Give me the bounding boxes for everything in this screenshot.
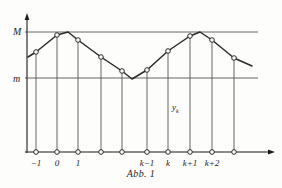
data-point-marker [210,38,215,43]
data-point-marker [34,50,39,55]
data-markers-group [34,33,237,74]
curve-group [28,32,252,79]
level-lines-group [25,32,258,78]
data-point-marker [76,38,81,43]
x-tick-label: 1 [64,159,92,168]
droplines-group [36,35,234,152]
axis-tick-marker [120,150,125,155]
series-polyline [28,32,252,79]
x-axis-arrowhead [268,150,275,155]
axis-tick-marker [34,150,39,155]
figure-abb-1: M m yk −101k−1kk+1k+2 Abb. 1 [0,0,282,188]
y-axis-arrowhead [25,13,30,20]
series-label-subscript: k [176,108,179,114]
axis-tick-marker [55,150,60,155]
axis-tick-marker [76,150,81,155]
x-tick-label: k+2 [198,159,226,168]
axis-tick-marker [145,150,150,155]
axis-tick-marker [232,150,237,155]
axis-tick-marker [99,150,104,155]
data-point-marker [232,56,237,61]
data-point-marker [99,55,104,60]
axis-tick-marker [166,150,171,155]
data-point-marker [120,69,125,74]
lower-bound-label: m [13,74,20,84]
figure-caption: Abb. 1 [0,168,282,179]
data-point-marker [166,49,171,54]
axis-tick-marker [188,150,193,155]
axis-tick-marker [210,150,215,155]
series-label: yk [172,103,179,114]
data-point-marker [145,68,150,73]
data-point-marker [55,33,60,38]
upper-bound-label: M [13,27,21,37]
data-point-marker [188,34,193,39]
